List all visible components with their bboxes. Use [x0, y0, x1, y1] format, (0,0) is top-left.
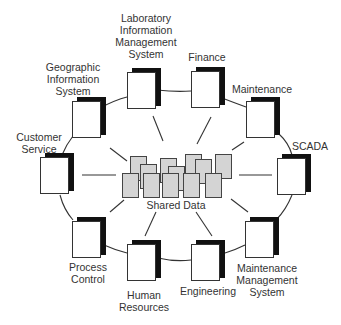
ring-arc-engineering-hr — [158, 258, 191, 261]
label-hr: Human Resources — [116, 289, 172, 313]
node-scada — [277, 154, 311, 196]
node-process — [72, 217, 106, 259]
node-gis — [72, 97, 106, 139]
shared-doc — [162, 173, 179, 198]
ring-arc-mms-engineering — [225, 245, 245, 253]
center-label: Shared Data — [140, 199, 212, 211]
node-lims — [127, 68, 161, 110]
spoke-gis — [110, 148, 127, 161]
spoke-maintenance — [232, 142, 244, 150]
node-hr — [127, 240, 161, 282]
label-customer: Customer Service — [14, 131, 64, 155]
label-maintenance: Maintenance — [230, 83, 294, 95]
shared-doc — [122, 173, 139, 198]
spoke-lims — [153, 116, 163, 141]
shared-doc — [183, 173, 200, 198]
label-lims: Laboratory Information Management System — [108, 12, 184, 60]
label-finance: Finance — [182, 51, 232, 63]
node-engineering — [191, 240, 225, 282]
ring-arc-finance-maintenance — [222, 98, 246, 107]
ring-arc-lims-finance — [157, 90, 191, 91]
spoke-process — [110, 200, 124, 212]
label-mms: Maintenance Management System — [235, 262, 299, 298]
node-maintenance — [246, 97, 280, 139]
node-mms — [245, 217, 279, 259]
node-finance — [191, 67, 225, 109]
shared-doc — [143, 173, 160, 198]
spoke-mms — [231, 199, 248, 212]
spoke-engineering — [196, 212, 212, 236]
node-customer — [40, 153, 74, 195]
label-engineering: Engineering — [176, 285, 240, 297]
shared-doc — [205, 173, 222, 198]
label-gis: Geographic Information System — [40, 61, 106, 97]
label-scada: SCADA — [290, 140, 330, 152]
spoke-finance — [197, 117, 211, 144]
ring-arc-hr-process — [104, 245, 127, 253]
spoke-hr — [145, 212, 156, 236]
label-process: Process Control — [64, 261, 112, 285]
